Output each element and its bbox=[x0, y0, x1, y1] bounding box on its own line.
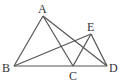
segment-CE bbox=[73, 34, 91, 66]
segment-AB bbox=[14, 16, 43, 66]
geometry-figure: A B C D E bbox=[0, 0, 121, 81]
segment-AC bbox=[43, 16, 73, 66]
segment-ED bbox=[91, 34, 107, 66]
segment-BE bbox=[14, 34, 91, 66]
label-C: C bbox=[69, 69, 77, 81]
figure-canvas: A B C D E bbox=[0, 0, 121, 81]
label-A: A bbox=[38, 2, 47, 16]
label-B: B bbox=[2, 61, 10, 75]
label-E: E bbox=[87, 20, 94, 34]
label-D: D bbox=[109, 61, 118, 75]
